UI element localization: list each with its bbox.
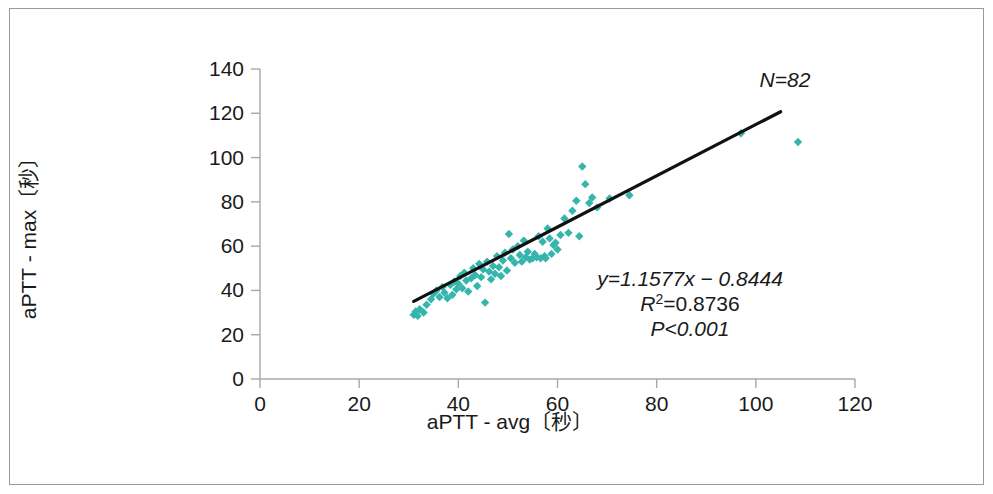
x-tick-label: 20 [347,392,370,415]
y-tick-label: 0 [232,367,244,390]
data-point-marker [481,298,489,306]
y-tick-label: 140 [209,57,244,80]
data-point-marker [495,263,503,271]
y-axis-title: aPTT - max〔秒〕 [17,147,40,319]
y-tick-label: 80 [221,190,244,213]
data-point-marker [572,197,580,205]
y-tick-label: 100 [209,146,244,169]
x-tick-label: 0 [254,392,266,415]
data-point-marker [568,207,576,215]
data-point-marker [564,229,572,237]
data-point-marker [547,250,555,258]
data-point-marker [794,138,802,146]
data-point-marker [578,162,586,170]
x-tick-label: 120 [837,392,872,415]
x-tick-label: 100 [738,392,773,415]
scatter-plot: 020406080100120140 020406080100120 aPTT … [10,9,985,486]
x-axis-ticks [260,379,855,388]
equation-text: y=1.1577x − 0.8444 [595,267,783,290]
y-tick-label: 20 [221,323,244,346]
r-squared-value: =0.8736 [663,292,740,315]
data-point-marker [545,234,553,242]
data-point-markers [410,129,803,320]
x-axis-title: aPTT - avg〔秒〕 [427,410,593,433]
equation-annotation: y=1.1577x − 0.8444 [595,267,783,290]
sample-size-annotation: N=82 [760,68,811,91]
y-tick-label: 120 [209,101,244,124]
y-tick-label: 40 [221,278,244,301]
y-axis-ticks [251,69,260,379]
data-point-marker [503,266,511,274]
y-tick-label: 60 [221,234,244,257]
r-squared-annotation: R2=0.8736 [640,291,739,315]
x-tick-label: 80 [645,392,668,415]
p-value-annotation: P<0.001 [651,317,730,340]
y-axis-tick-labels: 020406080100120140 [209,57,244,390]
data-point-marker [556,231,564,239]
r-squared-exponent: 2 [655,291,663,307]
data-point-marker [473,282,481,290]
data-point-marker [575,232,583,240]
figure-root: 020406080100120140 020406080100120 aPTT … [0,0,993,494]
data-point-marker [581,180,589,188]
r-squared-symbol: R [640,292,655,315]
figure-border-frame: 020406080100120140 020406080100120 aPTT … [9,8,984,485]
data-point-marker [505,230,513,238]
